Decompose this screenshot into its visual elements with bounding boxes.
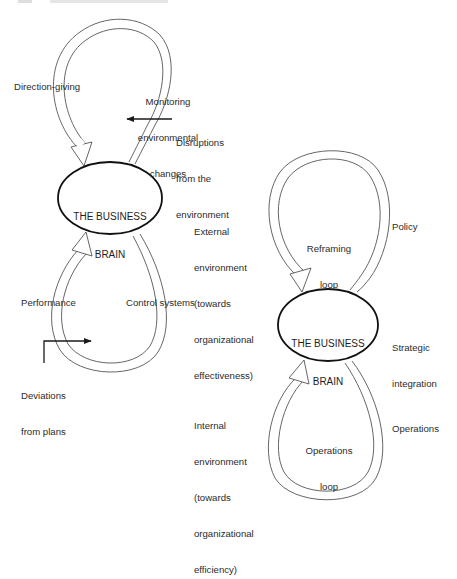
operations-label: Operations bbox=[392, 423, 439, 435]
strategic-integration-line1: Strategic bbox=[392, 342, 437, 354]
strategic-integration-line2: integration bbox=[392, 378, 437, 390]
monitoring-label-line1: Monitoring bbox=[128, 96, 208, 108]
disruptions-label-line1: Disruptions bbox=[176, 137, 229, 149]
control-systems-label: Control systems bbox=[126, 297, 195, 309]
policy-label: Policy bbox=[392, 221, 418, 233]
strategic-integration-label: Strategic integration bbox=[392, 318, 437, 402]
deviations-label-line1: Deviations bbox=[21, 390, 66, 402]
operations-loop-line1: Operations bbox=[289, 445, 369, 457]
right-brain-label-line1: THE BUSINESS bbox=[286, 338, 370, 351]
external-env-line5: effectiveness) bbox=[194, 370, 254, 382]
right-brain-label: THE BUSINESS BRAIN bbox=[286, 313, 370, 401]
reframing-loop-line1: Reframing bbox=[289, 243, 369, 255]
operations-loop-label: Operations loop bbox=[289, 421, 369, 505]
left-brain-label-line2: BRAIN bbox=[68, 249, 152, 262]
left-brain-label-line1: THE BUSINESS bbox=[68, 211, 152, 224]
right-brain-label-line2: BRAIN bbox=[286, 376, 370, 389]
deviations-label-line2: from plans bbox=[21, 426, 66, 438]
internal-env-line5: efficiency) bbox=[194, 564, 254, 576]
disruptions-label-line2: from the bbox=[176, 173, 229, 185]
internal-env-line3: (towards bbox=[194, 492, 254, 504]
external-env-line1: External bbox=[194, 226, 254, 238]
reframing-loop-line2: loop bbox=[289, 279, 369, 291]
external-env-line3: (towards bbox=[194, 298, 254, 310]
internal-environment-label: Internal environment (towards organizati… bbox=[194, 396, 254, 579]
internal-env-line4: organizational bbox=[194, 528, 254, 540]
deviations-arrow bbox=[44, 341, 91, 363]
performance-label: Performance bbox=[21, 297, 76, 309]
operations-loop-line2: loop bbox=[289, 481, 369, 493]
external-env-line2: environment bbox=[194, 262, 254, 274]
external-environment-label: External environment (towards organizati… bbox=[194, 202, 254, 394]
external-env-line4: organizational bbox=[194, 334, 254, 346]
left-brain-label: THE BUSINESS BRAIN bbox=[68, 186, 152, 274]
internal-env-line1: Internal bbox=[194, 420, 254, 432]
internal-env-line2: environment bbox=[194, 456, 254, 468]
reframing-loop-label: Reframing loop bbox=[289, 219, 369, 303]
direction-giving-label: Direction-giving bbox=[14, 81, 80, 93]
deviations-label: Deviations from plans bbox=[21, 366, 66, 450]
